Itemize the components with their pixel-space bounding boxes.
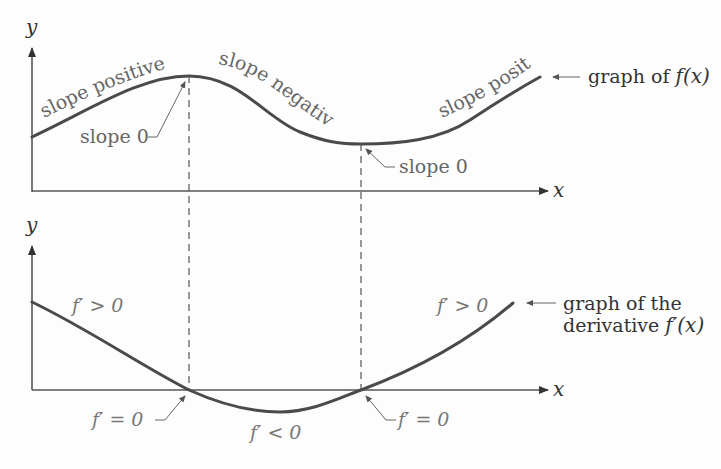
leader-slope-zero-max — [148, 82, 185, 137]
label-derivative-fprime: derivative f′(x) — [563, 313, 704, 337]
bottom-y-axis-label: y — [25, 213, 38, 237]
bottom-graph: y x f′ > 0 f′ < 0 f′ > 0 f′ = 0 f′ = 0 g… — [25, 213, 704, 443]
top-x-axis-label: x — [553, 178, 564, 202]
f-prime-curve — [32, 302, 513, 412]
label-graph-of-the: graph of the — [563, 292, 682, 314]
derivative-diagram: y x slope positive slope negative slope … — [0, 0, 721, 469]
leader-fprime-zero-right — [366, 396, 396, 420]
label-slope-positive-left: slope positive — [36, 51, 167, 121]
leader-slope-zero-min — [366, 149, 395, 167]
label-fprime-positive-left: f′ > 0 — [70, 294, 123, 316]
label-fprime-zero-right: f′ = 0 — [396, 408, 449, 430]
bottom-x-axis-label: x — [553, 377, 564, 401]
leader-fprime-zero-left — [155, 396, 185, 420]
label-fprime-zero-left: f′ = 0 — [90, 408, 143, 430]
label-fprime-negative: f′ < 0 — [248, 421, 301, 443]
top-y-axis-label: y — [25, 15, 38, 39]
label-graph-of-f: graph of f(x) — [588, 64, 710, 88]
label-fprime-positive-right: f′ > 0 — [435, 294, 488, 316]
label-slope-zero-max: slope 0 — [80, 125, 149, 147]
label-slope-zero-min: slope 0 — [399, 155, 468, 177]
